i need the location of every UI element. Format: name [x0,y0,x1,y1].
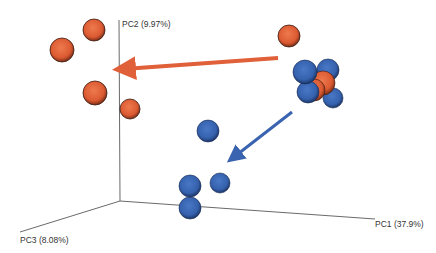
data-point [120,99,140,119]
orange-group [50,19,300,119]
blue-group [179,120,230,219]
blue-arrow [234,112,292,157]
data-point [197,120,219,142]
mixed-cluster [293,59,343,108]
data-point [297,81,319,103]
pc1-axis-label: PC1 (37.9%) [375,219,424,229]
data-point [293,60,317,84]
data-point [278,25,300,47]
pc3-axis [20,201,120,232]
data-point [83,19,105,41]
pca-3d-plot: PC2 (9.97%) PC3 (8.08%) PC1 (37.9%) [0,0,436,253]
data-point [83,81,107,105]
pc1-axis [120,201,375,219]
pc3-axis-label: PC3 (8.08%) [20,235,69,245]
pc2-axis-label: PC2 (9.97%) [122,19,171,29]
data-point [179,197,201,219]
data-point [210,173,230,193]
orange-arrow [124,58,278,69]
data-point [50,38,74,62]
data-point [179,175,201,197]
